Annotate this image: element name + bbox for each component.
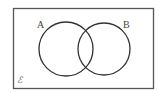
universal-set-label: ℰ [17,76,22,85]
universal-set-frame [14,9,154,89]
set-b-label: B [123,20,130,30]
set-a-label: A [37,20,44,30]
venn-diagram [0,0,159,93]
